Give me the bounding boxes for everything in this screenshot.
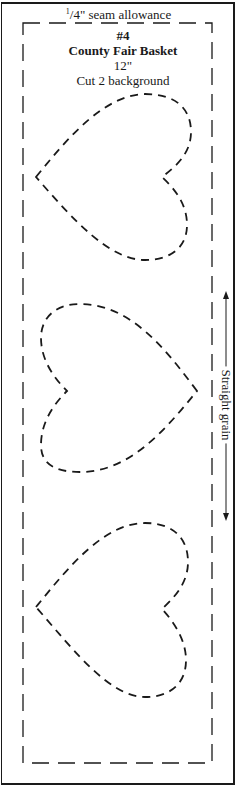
heart-shape-2 — [41, 304, 197, 472]
arrow-down-icon — [223, 513, 229, 521]
heart-shape-3 — [36, 523, 188, 697]
arrow-up-icon — [223, 291, 229, 299]
seam-line-rectangle — [23, 23, 212, 763]
heart-shape-1 — [36, 94, 191, 260]
straight-grain-label: Straight grain — [219, 366, 233, 443]
pattern-artwork — [0, 0, 243, 797]
